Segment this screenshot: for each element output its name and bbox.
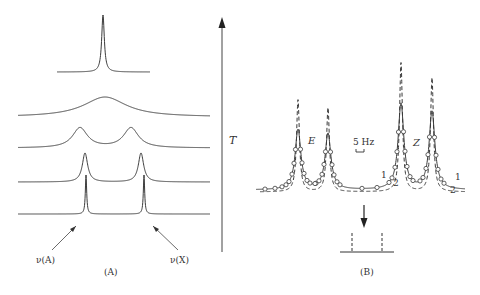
- spectrum-trace-near-coalescence: [18, 127, 210, 147]
- experimental-point: [396, 130, 400, 134]
- experimental-point: [273, 186, 277, 190]
- curve-label-left-2: 2: [393, 178, 399, 188]
- experimental-point: [302, 171, 306, 175]
- experimental-point: [426, 153, 430, 157]
- experimental-point: [393, 165, 397, 169]
- experimental-point: [317, 179, 321, 183]
- isomer-z-label: Z: [412, 137, 421, 148]
- experimental-point: [436, 167, 440, 171]
- scale-label: 5 Hz: [353, 137, 374, 147]
- experimental-point: [401, 130, 405, 134]
- experimental-point: [332, 173, 336, 177]
- experimental-point: [405, 164, 409, 168]
- panel-a-caption: (A): [104, 267, 118, 277]
- panel-a-annotations: ν(A) ν(X) (A): [36, 226, 189, 277]
- experimental-point: [338, 183, 342, 187]
- curve-label-right-1: 1: [455, 172, 461, 182]
- nu-a-label: ν(A): [36, 255, 55, 265]
- nu-x-label: ν(X): [170, 255, 189, 265]
- arrowhead-down-icon: [361, 218, 368, 228]
- experimental-point: [292, 161, 296, 165]
- panel-a-spectra: [18, 15, 210, 214]
- curve-label-left-1: 1: [381, 170, 387, 180]
- experimental-point: [328, 150, 332, 154]
- experimental-point: [424, 166, 428, 170]
- experimental-point: [293, 147, 297, 151]
- experimental-point: [375, 185, 379, 189]
- spectrum-trace-slow-exchange: [18, 153, 210, 182]
- nmr-exchange-figure: T ν(A) ν(X) (A) E Z 5 Hz 1 2 1 2 (B): [0, 0, 480, 295]
- experimental-point: [323, 150, 327, 154]
- arrowhead-up-icon: [219, 17, 226, 28]
- experimental-point: [298, 147, 302, 151]
- spectrum-trace-coalesced-broad: [18, 97, 210, 116]
- curve-label-right-2: 2: [450, 185, 456, 195]
- experimental-point: [308, 181, 312, 185]
- panel-b-spectra: [256, 63, 465, 192]
- experimental-point: [395, 150, 399, 154]
- temperature-axis: T: [219, 17, 239, 252]
- experimental-point: [408, 175, 412, 179]
- experimental-point: [280, 185, 284, 189]
- spectrum-trace-coalesced-sharp: [57, 15, 150, 72]
- temperature-label: T: [229, 134, 238, 147]
- panel-b-caption: (B): [360, 267, 374, 277]
- experimental-point: [403, 149, 407, 153]
- experimental-point: [290, 172, 294, 176]
- experimental-point: [287, 179, 291, 183]
- experimental-point: [322, 162, 326, 166]
- experimental-point: [421, 175, 425, 179]
- experimental-point: [387, 180, 391, 184]
- experimental-point: [360, 186, 364, 190]
- experimental-point: [263, 187, 267, 191]
- experimental-point: [434, 153, 438, 157]
- experimental-point: [432, 135, 436, 139]
- experimental-point: [300, 161, 304, 165]
- experimental-point: [320, 172, 324, 176]
- scale-bar-icon: [356, 149, 364, 152]
- experimental-point: [427, 135, 431, 139]
- experimental-point: [439, 177, 443, 181]
- experimental-point: [313, 181, 317, 185]
- experimental-point: [442, 181, 446, 185]
- isomer-e-label: E: [307, 135, 316, 146]
- experimental-point: [411, 178, 415, 182]
- experimental-point: [330, 163, 334, 167]
